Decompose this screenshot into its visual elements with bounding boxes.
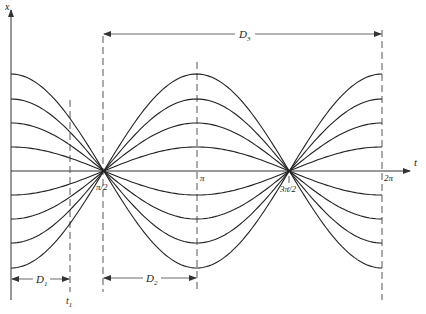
three-pi-half-label: 3π/2 [279, 184, 297, 194]
d1-label: D1 [35, 273, 47, 288]
y-axis-label: x [4, 1, 10, 12]
x-axis-label: t [414, 156, 418, 168]
pi-half-label: π/2 [96, 182, 108, 192]
two-pi-label: 2π [384, 173, 394, 183]
pi-label: π [200, 173, 205, 183]
d2-label: D2 [145, 272, 158, 287]
standing-wave-diagram: x t D3 D1 D2 t1 π/2 π 3π/2 2π [0, 0, 426, 314]
t1-label: t1 [66, 295, 72, 309]
d3-label: D3 [238, 28, 251, 43]
